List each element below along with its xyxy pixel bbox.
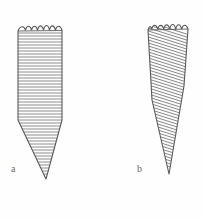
specimen-illustration xyxy=(0,0,203,220)
figure-plate: a b xyxy=(0,0,203,220)
specimen-b xyxy=(142,20,196,175)
specimen-b-hatching xyxy=(142,20,196,175)
specimen-a-rim xyxy=(18,31,62,32)
figure-label-a: a xyxy=(11,164,15,174)
specimen-a xyxy=(14,26,66,180)
figure-label-b: b xyxy=(137,164,142,174)
